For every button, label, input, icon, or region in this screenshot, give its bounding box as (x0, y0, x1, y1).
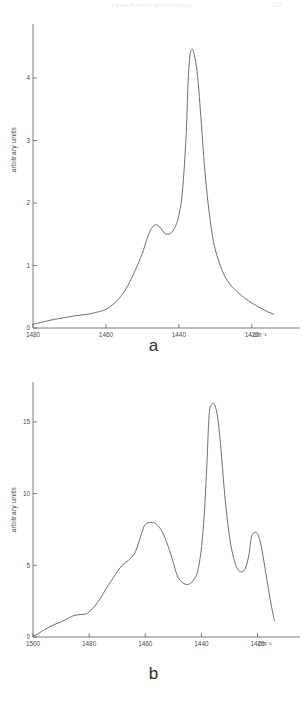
svg-text:1500: 1500 (26, 640, 41, 647)
y-axis-label-a: arbitrary units (10, 159, 17, 173)
svg-text:1460: 1460 (138, 640, 153, 647)
svg-text:4: 4 (26, 74, 30, 81)
panel-label-a: a (0, 336, 307, 356)
svg-text:1440: 1440 (194, 640, 209, 647)
svg-text:15: 15 (23, 418, 31, 425)
plot-area-a: 012341480146014401420cm⁻¹ (0, 10, 307, 340)
spectrum-chart-a: 012341480146014401420cm⁻¹ (0, 10, 307, 340)
plot-area-b: 05101515001480146014401420cm⁻¹ (0, 372, 307, 667)
figure-panel-b: 05101515001480146014401420cm⁻¹ arbitrary… (0, 372, 307, 697)
svg-text:10: 10 (23, 490, 31, 497)
panel-label-b: b (0, 664, 307, 684)
svg-text:2: 2 (26, 199, 30, 206)
svg-text:3: 3 (26, 137, 30, 144)
svg-text:5: 5 (26, 562, 30, 569)
header-title: Laser Raman spectroscopy (112, 2, 192, 8)
y-axis-label-b: arbitrary units (10, 519, 17, 533)
svg-text:1480: 1480 (82, 640, 97, 647)
svg-text:cm⁻¹: cm⁻¹ (258, 640, 272, 647)
figure-panel-a: 012341480146014401420cm⁻¹ arbitrary unit… (0, 10, 307, 360)
header-page-number: 135 (272, 2, 283, 8)
svg-text:1: 1 (26, 262, 30, 269)
spectrum-chart-b: 05101515001480146014401420cm⁻¹ (0, 372, 307, 667)
